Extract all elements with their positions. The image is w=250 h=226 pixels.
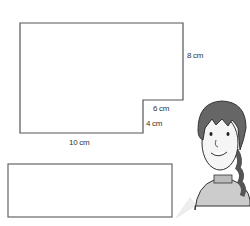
diagram-canvas xyxy=(0,0,250,226)
label-right-side: 8 cm xyxy=(187,51,203,60)
answer-box[interactable] xyxy=(8,164,172,217)
label-bottom: 10 cm xyxy=(69,138,89,147)
girl-illustration xyxy=(176,101,250,218)
l-shape xyxy=(20,23,183,133)
label-notch-top: 6 cm xyxy=(153,104,169,113)
label-notch-side: 4 cm xyxy=(146,119,162,128)
